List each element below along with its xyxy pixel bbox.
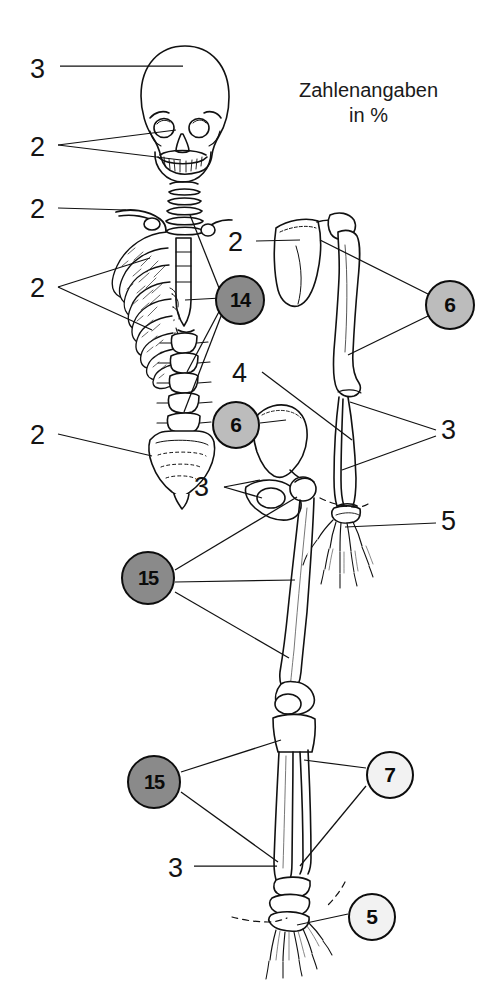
skeleton-illustration — [0, 0, 503, 989]
caption-line-1: Zahlenangaben — [281, 78, 456, 103]
left-leg-group — [232, 405, 345, 979]
badge-6-arm: 6 — [425, 280, 475, 330]
badge-14-spine: 14 — [215, 275, 265, 325]
label-3-skull: 3 — [30, 56, 45, 83]
label-2-face: 2 — [30, 134, 45, 161]
label-2-sacrum: 2 — [30, 422, 45, 449]
label-2-scapula: 2 — [228, 229, 243, 256]
label-2-ribs: 2 — [30, 275, 45, 302]
rib-cage-group — [112, 232, 179, 389]
badge-15-femur: 15 — [121, 551, 175, 605]
label-4-femur: 4 — [232, 360, 247, 387]
badge-15-tibia: 15 — [127, 755, 181, 809]
label-2-clavicle: 2 — [30, 196, 45, 223]
label-5-hand: 5 — [441, 508, 456, 535]
badge-7-fibula: 7 — [366, 751, 414, 799]
cervical-spine-group — [166, 182, 204, 235]
label-3-forearm: 3 — [441, 417, 456, 444]
right-arm-group — [274, 213, 373, 588]
figure-caption: Zahlenangaben in % — [281, 78, 456, 128]
caption-line-2: in % — [281, 103, 456, 128]
label-3-pelvis: 3 — [194, 474, 209, 501]
label-3-ankle: 3 — [168, 855, 183, 882]
badge-6-hip: 6 — [212, 401, 260, 449]
badge-5-foot: 5 — [348, 893, 396, 941]
figure-canvas: Zahlenangaben in % 3 2 2 2 2 2 4 3 3 5 3… — [0, 0, 503, 989]
